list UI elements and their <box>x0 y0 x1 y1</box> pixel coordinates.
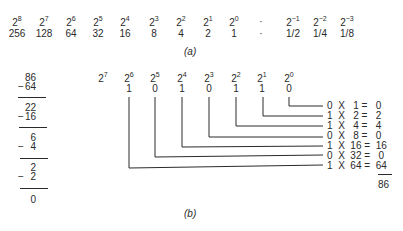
sum-total: 86 <box>378 179 389 190</box>
caption-b: (b) <box>184 208 196 219</box>
sum-rule-line <box>378 174 392 175</box>
product-row: 1 X 64 = 64 <box>327 160 387 171</box>
